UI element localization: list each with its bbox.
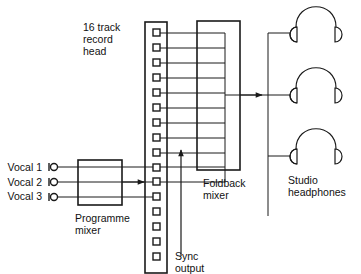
programme-mixer-label: Programme mixer — [75, 212, 130, 236]
diagram-canvas — [0, 0, 361, 274]
record-head-label: 16 track record head — [83, 21, 120, 57]
sync-output-label: Sync output — [175, 250, 204, 274]
foldback-mixer-label: Foldback mixer — [203, 177, 246, 201]
headphones-icon — [290, 68, 342, 103]
headphones-icon — [290, 129, 342, 164]
foldback-feed-lines — [160, 33, 225, 182]
studio-headphones-label: Studio headphones — [288, 174, 346, 198]
vocal-3-label: Vocal 3 — [0, 190, 42, 202]
vocal-1-label: Vocal 1 — [0, 161, 42, 173]
jack-icon — [49, 163, 58, 201]
vocal-2-label: Vocal 2 — [0, 176, 42, 188]
headphones-icon — [290, 7, 342, 42]
record-head-tracks — [153, 29, 160, 260]
